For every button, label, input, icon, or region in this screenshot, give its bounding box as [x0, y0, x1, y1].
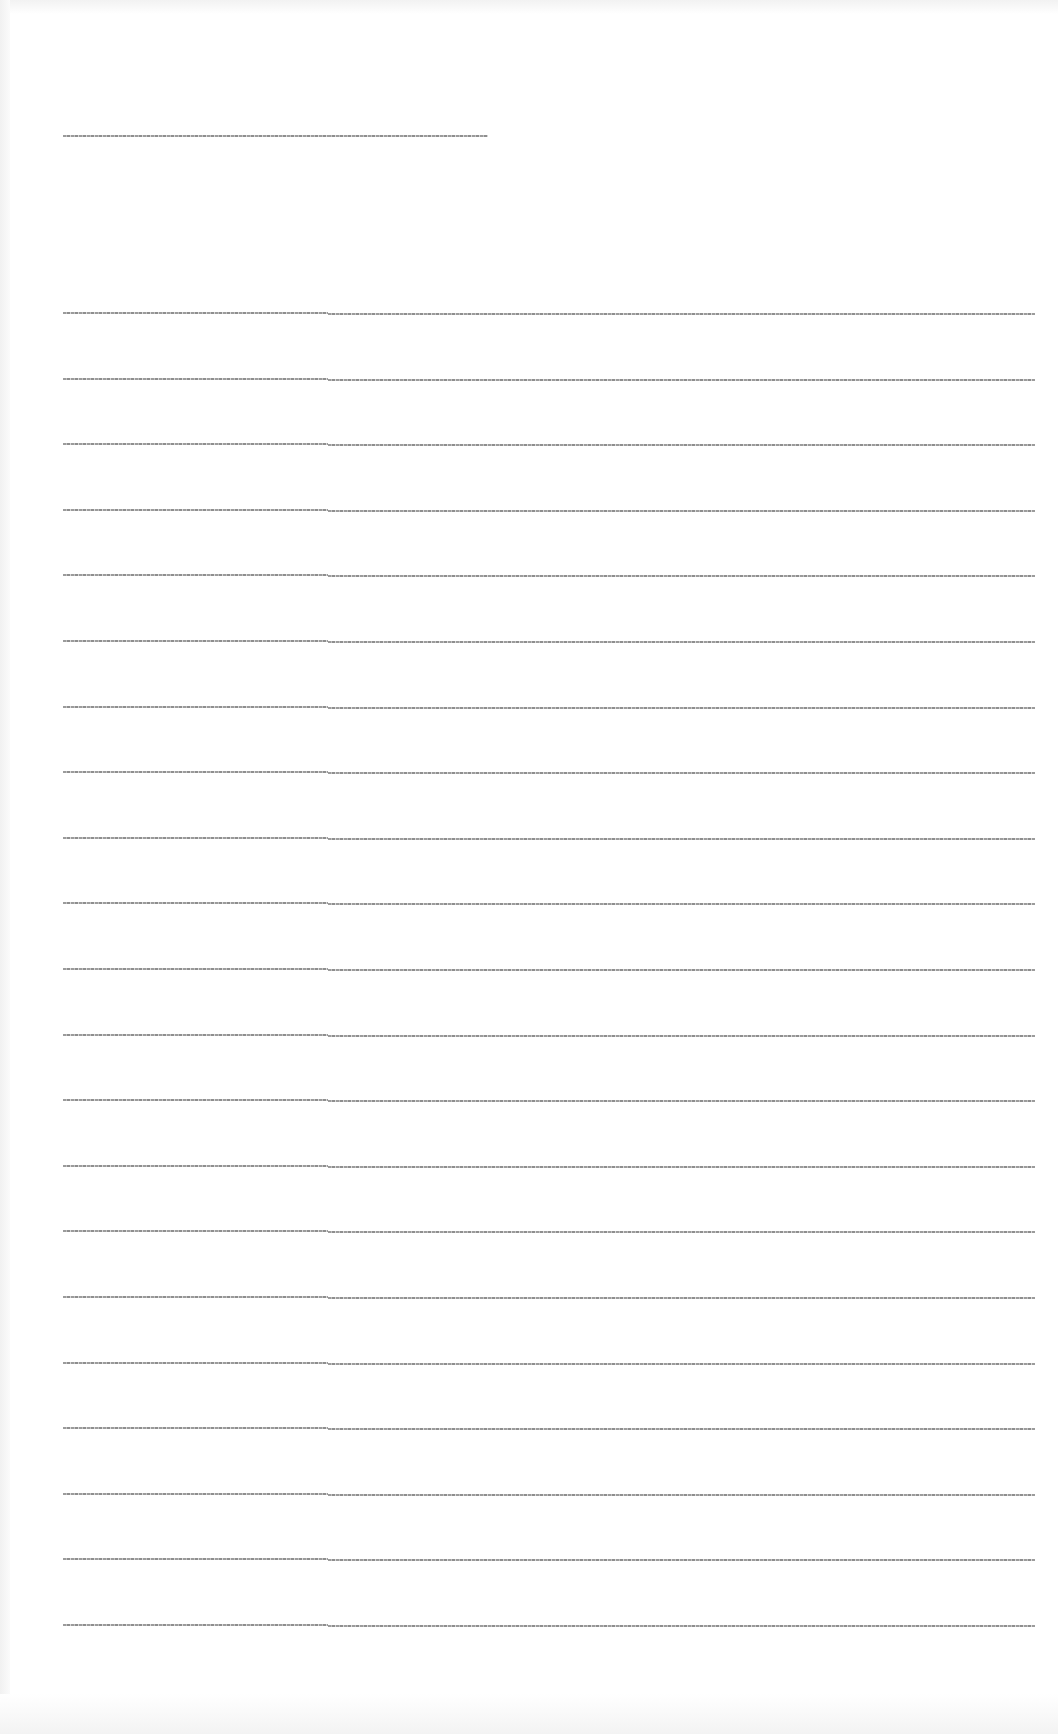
row-value: [illegible] — [328, 641, 1035, 643]
heading-part-a: [illegible text] — [63, 135, 328, 137]
table-row: [illegible][illegible] — [63, 312, 1035, 314]
heading-part-b: [illegible text] — [328, 135, 488, 137]
table-row: [illegible][illegible] — [63, 640, 1035, 642]
table-row: [illegible][illegible] — [63, 1034, 1035, 1036]
row-label: [illegible] — [63, 902, 328, 904]
row-value: [illegible] — [328, 1231, 1035, 1233]
row-value: [illegible] — [328, 1428, 1035, 1430]
row-label: [illegible] — [63, 1165, 328, 1167]
table-row: [illegible][illegible] — [63, 1362, 1035, 1364]
row-value: [illegible] — [328, 1559, 1035, 1561]
table-row: [illegible][illegible] — [63, 1099, 1035, 1101]
row-value: [illegible] — [328, 772, 1035, 774]
row-label: [illegible] — [63, 1427, 328, 1429]
row-value: [illegible] — [328, 1494, 1035, 1496]
bottom-edge — [0, 1694, 1058, 1734]
table-row: [illegible][illegible] — [63, 443, 1035, 445]
table-row: [illegible][illegible] — [63, 1624, 1035, 1626]
row-label: [illegible] — [63, 1362, 328, 1364]
row-value: [illegible] — [328, 1035, 1035, 1037]
left-edge — [0, 0, 10, 1734]
row-label: [illegible] — [63, 312, 328, 314]
row-label: [illegible] — [63, 1296, 328, 1298]
row-value: [illegible] — [328, 1625, 1035, 1627]
table-row: [illegible][illegible] — [63, 902, 1035, 904]
table-row: [illegible][illegible] — [63, 1427, 1035, 1429]
row-value: [illegible] — [328, 379, 1035, 381]
row-label: [illegible] — [63, 1099, 328, 1101]
row-label: [illegible] — [63, 1034, 328, 1036]
row-label: [illegible] — [63, 378, 328, 380]
row-label: [illegible] — [63, 1493, 328, 1495]
row-value: [illegible] — [328, 969, 1035, 971]
row-label: [illegible] — [63, 574, 328, 576]
document-heading: [illegible text] [illegible text] — [63, 135, 488, 137]
table-row: [illegible][illegible] — [63, 574, 1035, 576]
table-row: [illegible][illegible] — [63, 378, 1035, 380]
row-value: [illegible] — [328, 444, 1035, 446]
row-value: [illegible] — [328, 313, 1035, 315]
row-value: [illegible] — [328, 903, 1035, 905]
row-value: [illegible] — [328, 1100, 1035, 1102]
table-row: [illegible][illegible] — [63, 771, 1035, 773]
row-value: [illegible] — [328, 1166, 1035, 1168]
row-value: [illegible] — [328, 838, 1035, 840]
row-value: [illegible] — [328, 510, 1035, 512]
table-row: [illegible][illegible] — [63, 1165, 1035, 1167]
row-label: [illegible] — [63, 509, 328, 511]
table-row: [illegible][illegible] — [63, 1493, 1035, 1495]
table-row: [illegible][illegible] — [63, 706, 1035, 708]
row-value: [illegible] — [328, 1297, 1035, 1299]
row-label: [illegible] — [63, 837, 328, 839]
table-row: [illegible][illegible] — [63, 1558, 1035, 1560]
row-value: [illegible] — [328, 707, 1035, 709]
row-label: [illegible] — [63, 640, 328, 642]
row-label: [illegible] — [63, 771, 328, 773]
table-row: [illegible][illegible] — [63, 837, 1035, 839]
table-row: [illegible][illegible] — [63, 968, 1035, 970]
top-edge — [0, 0, 1058, 14]
row-label: [illegible] — [63, 1558, 328, 1560]
row-value: [illegible] — [328, 575, 1035, 577]
table-row: [illegible][illegible] — [63, 1230, 1035, 1232]
table-row: [illegible][illegible] — [63, 509, 1035, 511]
row-label: [illegible] — [63, 706, 328, 708]
row-label: [illegible] — [63, 1624, 328, 1626]
table-row: [illegible][illegible] — [63, 1296, 1035, 1298]
row-label: [illegible] — [63, 1230, 328, 1232]
row-label: [illegible] — [63, 968, 328, 970]
row-value: [illegible] — [328, 1363, 1035, 1365]
row-label: [illegible] — [63, 443, 328, 445]
